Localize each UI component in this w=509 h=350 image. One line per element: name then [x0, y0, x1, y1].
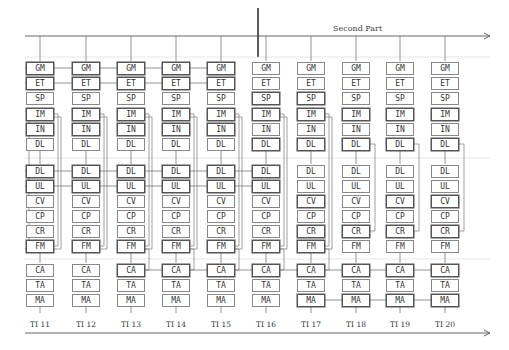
box-in: IN [342, 123, 370, 136]
box-ul: UL [297, 180, 325, 193]
box-sp: SP [72, 92, 100, 105]
box-ul: UL [117, 180, 145, 193]
box-et: ET [72, 77, 100, 90]
box-in: IN [252, 123, 280, 136]
box-sp: SP [431, 92, 459, 105]
box-gm: GM [297, 62, 325, 75]
box-ma: MA [26, 294, 54, 307]
box-in: IN [431, 123, 459, 136]
box-fm: FM [252, 240, 280, 253]
box-ul: UL [342, 180, 370, 193]
box-dl: DL [162, 138, 190, 151]
box-in: IN [207, 123, 235, 136]
box-sp: SP [386, 92, 414, 105]
box-in: IN [72, 123, 100, 136]
box-cv: CV [431, 195, 459, 208]
box-ma: MA [342, 294, 370, 307]
box-ul: UL [26, 180, 54, 193]
box-cr: CR [342, 225, 370, 238]
box-in: IN [386, 123, 414, 136]
box-ta: TA [26, 279, 54, 292]
box-dl: DL [297, 138, 325, 151]
box-ma: MA [72, 294, 100, 307]
box-et: ET [252, 77, 280, 90]
box-ma: MA [117, 294, 145, 307]
box-dl: DL [72, 165, 100, 178]
box-gm: GM [26, 62, 54, 75]
box-fm: FM [26, 240, 54, 253]
box-dl: DL [342, 165, 370, 178]
time-interval-label: TI 19 [380, 320, 420, 329]
box-ma: MA [162, 294, 190, 307]
box-ca: CA [252, 264, 280, 277]
box-sp: SP [117, 92, 145, 105]
box-dl: DL [431, 138, 459, 151]
box-fm: FM [431, 240, 459, 253]
box-cr: CR [431, 225, 459, 238]
time-interval-label: TI 17 [291, 320, 331, 329]
time-interval-label: TI 18 [336, 320, 376, 329]
box-im: IM [297, 108, 325, 121]
box-cr: CR [162, 225, 190, 238]
box-fm: FM [297, 240, 325, 253]
box-cr: CR [72, 225, 100, 238]
box-gm: GM [72, 62, 100, 75]
box-dl: DL [252, 138, 280, 151]
box-dl: DL [207, 138, 235, 151]
box-gm: GM [207, 62, 235, 75]
box-im: IM [252, 108, 280, 121]
box-ul: UL [207, 180, 235, 193]
box-cv: CV [72, 195, 100, 208]
box-ul: UL [162, 180, 190, 193]
box-in: IN [26, 123, 54, 136]
box-dl: DL [162, 165, 190, 178]
box-ca: CA [342, 264, 370, 277]
box-ca: CA [386, 264, 414, 277]
box-sp: SP [26, 92, 54, 105]
box-im: IM [431, 108, 459, 121]
box-cp: CP [386, 210, 414, 223]
box-dl: DL [26, 165, 54, 178]
box-cv: CV [342, 195, 370, 208]
box-cv: CV [117, 195, 145, 208]
box-cp: CP [207, 210, 235, 223]
box-gm: GM [386, 62, 414, 75]
time-interval-label: TI 13 [111, 320, 151, 329]
box-cr: CR [386, 225, 414, 238]
box-cr: CR [117, 225, 145, 238]
box-cp: CP [252, 210, 280, 223]
box-gm: GM [162, 62, 190, 75]
box-ta: TA [117, 279, 145, 292]
box-ca: CA [431, 264, 459, 277]
box-ma: MA [207, 294, 235, 307]
box-gm: GM [117, 62, 145, 75]
time-interval-label: TI 11 [20, 320, 60, 329]
time-interval-label: TI 16 [246, 320, 286, 329]
box-sp: SP [162, 92, 190, 105]
box-im: IM [342, 108, 370, 121]
box-et: ET [297, 77, 325, 90]
time-interval-label: TI 20 [425, 320, 465, 329]
box-ca: CA [26, 264, 54, 277]
box-cp: CP [342, 210, 370, 223]
box-et: ET [431, 77, 459, 90]
box-dl: DL [386, 138, 414, 151]
time-interval-label: TI 14 [156, 320, 196, 329]
box-cr: CR [26, 225, 54, 238]
box-ul: UL [431, 180, 459, 193]
box-gm: GM [252, 62, 280, 75]
box-in: IN [162, 123, 190, 136]
box-ma: MA [431, 294, 459, 307]
box-et: ET [117, 77, 145, 90]
box-fm: FM [162, 240, 190, 253]
box-dl: DL [207, 165, 235, 178]
box-ul: UL [252, 180, 280, 193]
box-et: ET [386, 77, 414, 90]
box-cv: CV [207, 195, 235, 208]
box-ca: CA [72, 264, 100, 277]
box-sp: SP [207, 92, 235, 105]
box-cp: CP [162, 210, 190, 223]
box-im: IM [72, 108, 100, 121]
box-ca: CA [297, 264, 325, 277]
box-cr: CR [207, 225, 235, 238]
